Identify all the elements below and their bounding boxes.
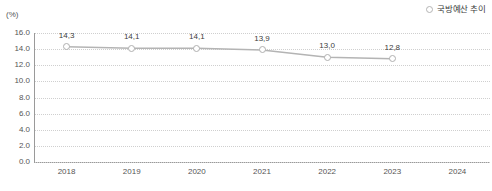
y-axis-tick-label: 12.0 <box>14 61 30 69</box>
data-point-marker[interactable] <box>128 45 135 52</box>
data-point-marker[interactable] <box>324 54 331 61</box>
line-chart: 국방예산 추이 (%) 16.014.012.010.08.06.04.02.0… <box>0 0 492 191</box>
gridline <box>35 146 490 147</box>
data-point-value-label: 13,0 <box>319 42 335 50</box>
x-axis-tick-label: 2019 <box>123 168 141 176</box>
gridline <box>35 98 490 99</box>
y-axis-tick-label: 16.0 <box>14 29 30 37</box>
x-axis-tick-label: 2024 <box>449 168 467 176</box>
y-axis-tick-label: 8.0 <box>19 94 30 102</box>
gridline <box>35 65 490 66</box>
y-axis-tick-label: 6.0 <box>19 110 30 118</box>
gridline <box>35 114 490 115</box>
gridline <box>35 81 490 82</box>
data-point-marker[interactable] <box>259 46 266 53</box>
data-point-value-label: 12,8 <box>384 44 400 52</box>
y-axis-tick-label: 4.0 <box>19 126 30 134</box>
x-axis-tick-label: 2023 <box>383 168 401 176</box>
data-point-value-label: 14,1 <box>124 33 140 41</box>
gridline <box>35 130 490 131</box>
data-point-value-label: 14,3 <box>59 32 75 40</box>
y-axis-tick-label: 10.0 <box>14 77 30 85</box>
y-axis-tick-label: 0.0 <box>19 158 30 166</box>
open-circle-icon <box>426 6 433 13</box>
x-axis-tick-label: 2020 <box>188 168 206 176</box>
data-point-value-label: 14,1 <box>189 33 205 41</box>
y-axis-unit-label: (%) <box>6 11 18 19</box>
gridline <box>35 162 490 163</box>
y-axis-tick-label: 2.0 <box>19 142 30 150</box>
x-axis-tick-label: 2022 <box>318 168 336 176</box>
chart-legend: 국방예산 추이 <box>426 2 486 16</box>
y-axis-tick-label: 14.0 <box>14 45 30 53</box>
legend-series-label: 국방예산 추이 <box>437 5 486 14</box>
data-point-value-label: 13,9 <box>254 35 270 43</box>
x-axis-tick-label: 2021 <box>253 168 271 176</box>
x-axis-tick-label: 2018 <box>58 168 76 176</box>
